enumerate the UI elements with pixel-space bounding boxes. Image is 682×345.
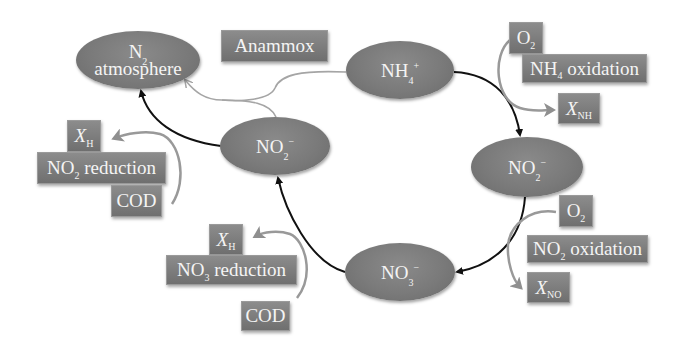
no2-reduction-box: NO2 reduction (37, 152, 166, 184)
nh4-oxidation-box: NH4 oxidation (522, 54, 647, 83)
xno-box: XNO (527, 272, 570, 303)
node-no3: NO3− (345, 243, 455, 301)
anammox-curve-nh4 (222, 72, 346, 101)
xh-lower-box: XH (209, 224, 243, 255)
nitrogen-cycle-diagram: N2 atmosphere NH4+ NO2− NO3− NO2− Anammo… (0, 0, 682, 345)
node-nh4: NH4+ (346, 41, 454, 99)
cod-upper-box: COD (111, 185, 162, 217)
no2-oxidation-box: NO2 oxidation (527, 235, 648, 263)
no3-reduction-box: NO3 reduction (166, 255, 297, 285)
anammox-label: Anammox (221, 30, 328, 62)
node-no2-left: NO2− (220, 117, 330, 175)
arrow-no2-to-no3 (457, 197, 525, 272)
o2-mid-box: O2 (559, 195, 593, 227)
node-n2-atmosphere: N2 atmosphere (76, 31, 200, 89)
arrow-no2-to-n2 (141, 91, 221, 146)
cod-lower-box: COD (241, 301, 290, 331)
node-no2-right: NO2− (471, 137, 583, 197)
anammox-curve-no2 (186, 81, 276, 117)
xh-upper-box: XH (67, 120, 101, 152)
atmosphere-label: atmosphere (94, 59, 182, 78)
o2-top-box: O2 (509, 22, 543, 54)
xnh-box: XNH (558, 93, 600, 124)
